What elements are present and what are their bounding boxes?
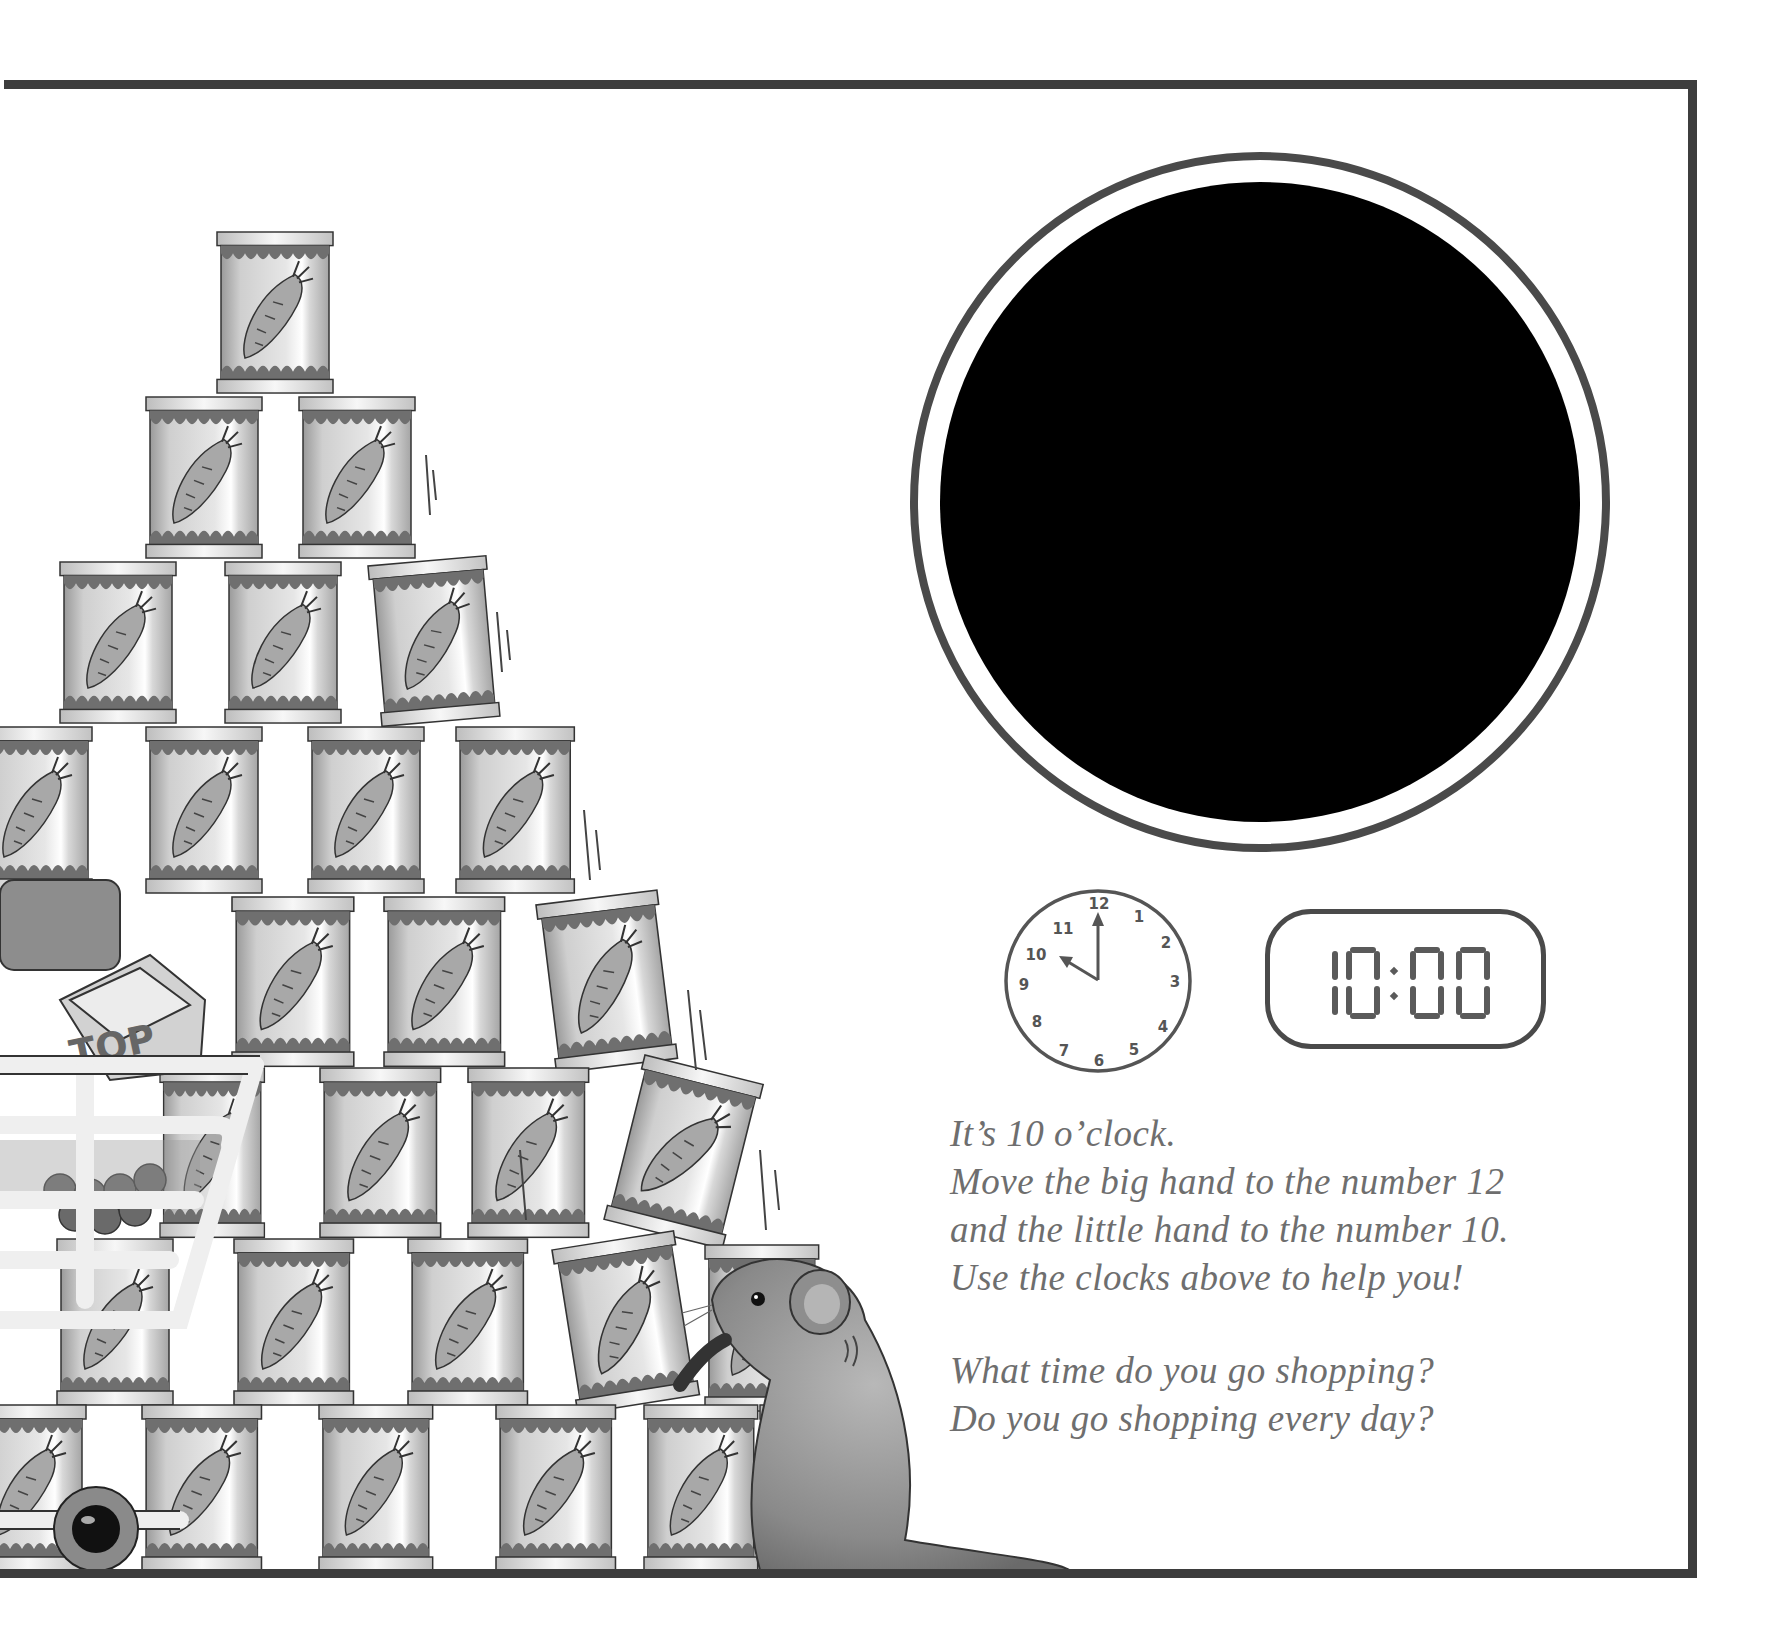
- clock-number-8: 8: [1032, 1013, 1042, 1031]
- clock-number-11: 11: [1053, 920, 1074, 938]
- digital-clock-display: 10:00: [1330, 947, 1500, 1019]
- large-clock-face: [906, 148, 1614, 856]
- clock-number-12: 12: [1089, 895, 1110, 913]
- instruction-line-2: Move the big hand to the number 12: [950, 1158, 1650, 1206]
- instruction-line-1: It’s 10 o’clock.: [950, 1110, 1650, 1158]
- paragraph-gap: [950, 1302, 1650, 1347]
- clock-number-10: 10: [1026, 946, 1047, 964]
- page-frame-bottom: [0, 1569, 1697, 1578]
- page-frame-top: [4, 80, 1696, 89]
- page-frame-right: [1688, 80, 1697, 1578]
- instruction-line-4: Use the clocks above to help you!: [950, 1254, 1650, 1302]
- instruction-line-3: and the little hand to the number 10.: [950, 1206, 1650, 1254]
- question-line-1: What time do you go shopping?: [950, 1347, 1650, 1395]
- digital-clock: 10:00: [1265, 909, 1546, 1049]
- clock-number-4: 4: [1158, 1018, 1168, 1036]
- clock-number-3: 3: [1170, 973, 1180, 991]
- instructions-text: It’s 10 o’clock. Move the big hand to th…: [950, 1110, 1650, 1443]
- clock-number-7: 7: [1059, 1042, 1069, 1060]
- clock-number-2: 2: [1161, 934, 1171, 952]
- clock-number-5: 5: [1129, 1041, 1139, 1059]
- book-page: TOP: [0, 0, 1787, 1642]
- analog-clock-icon: 12 1 2 3 4 5 6 7 8 9 10 11: [1003, 888, 1193, 1074]
- clock-number-9: 9: [1019, 976, 1029, 994]
- clock-number-6: 6: [1094, 1052, 1104, 1070]
- question-line-2: Do you go shopping every day?: [950, 1395, 1650, 1443]
- clock-number-1: 1: [1134, 908, 1144, 926]
